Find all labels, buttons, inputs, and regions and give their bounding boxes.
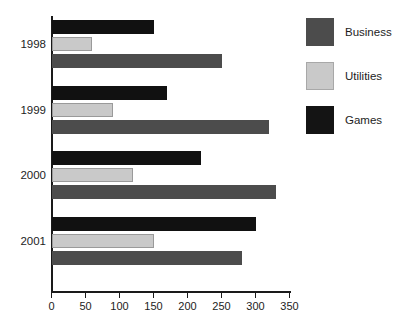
x-tick [289,292,291,298]
x-tick [85,292,87,298]
x-tick [221,292,223,298]
bar-1999-utilities [52,103,113,117]
bar-1999-games [52,86,168,100]
bar-2000-utilities [52,168,134,182]
bar-2001-games [52,217,256,231]
bar-2001-business [52,251,242,265]
legend-label: Utilities [345,70,382,82]
bar-1998-utilities [52,37,93,51]
utilities-swatch-icon [306,62,334,90]
legend-item-games[interactable]: Games [306,106,412,150]
x-tick [187,292,189,298]
category-label-1999: 1999 [0,104,46,116]
bar-2001-utilities [52,234,154,248]
legend-label: Games [345,114,382,126]
x-tick [51,292,53,298]
category-label-2000: 2000 [0,169,46,181]
category-label-2001: 2001 [0,235,46,247]
bar-1999-business [52,120,270,134]
legend: BusinessUtilitiesGames [306,18,412,150]
x-tick [255,292,257,298]
x-tick [119,292,121,298]
legend-label: Business [345,26,392,38]
bar-2000-games [52,151,202,165]
legend-item-utilities[interactable]: Utilities [306,62,412,106]
bar-chart: 050100150200250300350 1998199920002001 B… [0,0,412,331]
legend-item-business[interactable]: Business [306,18,412,62]
category-label-1998: 1998 [0,38,46,50]
x-tick-label: 350 [270,300,310,312]
business-swatch-icon [306,18,334,46]
bar-2000-business [52,185,276,199]
bar-1998-games [52,20,154,34]
games-swatch-icon [306,106,334,134]
bar-1998-business [52,54,222,68]
x-tick [153,292,155,298]
